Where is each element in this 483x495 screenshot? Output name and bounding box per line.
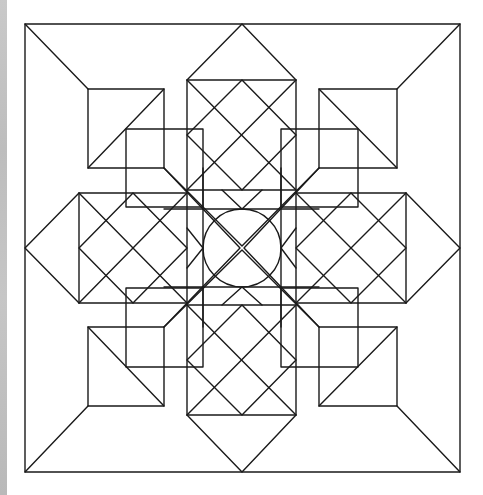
notch-top bbox=[222, 190, 262, 209]
geometric-pattern bbox=[0, 0, 483, 495]
center-circle bbox=[203, 209, 281, 287]
notch-right bbox=[281, 228, 296, 268]
right-arm bbox=[244, 168, 460, 327]
notch-bottom bbox=[222, 287, 262, 305]
outer-square bbox=[25, 24, 460, 472]
corner-diagonal-br bbox=[397, 406, 460, 472]
corner-diagonal-bl bbox=[25, 406, 88, 472]
corner-diagonal-tl bbox=[25, 24, 88, 89]
left-arm bbox=[25, 168, 240, 327]
corner-diagonal-tr bbox=[397, 24, 460, 89]
notch-left bbox=[187, 228, 203, 268]
